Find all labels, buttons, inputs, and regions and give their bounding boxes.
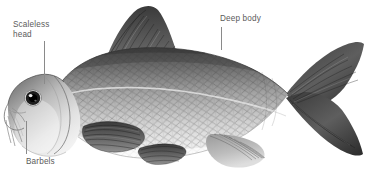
eye [25,90,42,106]
carp-illustration [0,0,368,182]
caudal-fin [286,42,364,156]
leader-line-scaleless-head [44,41,45,84]
label-barbels: Barbels [26,157,55,167]
anal-fin [206,134,265,168]
leader-line-deep-body [221,27,222,50]
label-deep-body: Deep body [220,14,261,24]
label-scaleless-head: Scaleless head [13,20,49,40]
pelvic-fin [138,144,186,165]
leader-line-barbels [26,121,27,154]
fish-anatomy-figure: Scaleless head Deep body Barbels [0,0,368,182]
